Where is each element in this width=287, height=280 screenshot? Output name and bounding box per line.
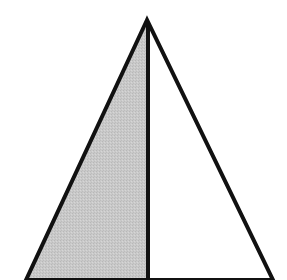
diagram-canvas bbox=[0, 0, 287, 280]
triangle-diagram bbox=[0, 0, 287, 280]
